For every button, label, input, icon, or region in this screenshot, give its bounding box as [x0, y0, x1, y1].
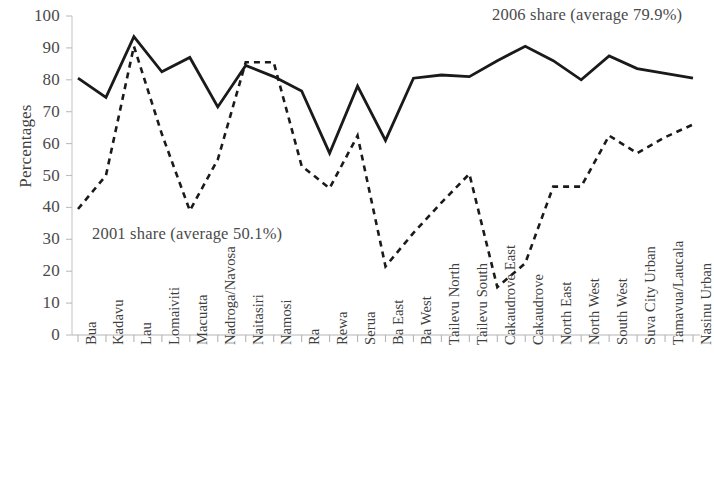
- x-axis-tick-label: North West: [587, 278, 602, 345]
- x-axis-tick-label: Lomaiviti: [167, 287, 182, 345]
- x-axis-tick-label: Naitasiri: [251, 294, 266, 345]
- x-axis-tick-label: Nadroga/Navosa: [223, 246, 238, 345]
- x-axis-tick-label: Bua: [84, 321, 99, 345]
- y-axis-tick-label: 10: [14, 294, 60, 311]
- x-axis-tick-label: Suva City Urban: [643, 246, 658, 345]
- y-axis-tick-label: 70: [14, 103, 60, 120]
- y-axis-tick-label: 50: [14, 167, 60, 184]
- x-axis-tick-label: South West: [615, 278, 630, 345]
- y-axis-tick-label: 100: [14, 7, 60, 24]
- series-line-2006: [78, 37, 693, 153]
- x-axis-tick-label: Ra: [307, 329, 322, 345]
- chart-series-lines: [78, 37, 693, 287]
- x-axis-tick-label: Ba West: [419, 296, 434, 345]
- series-line-2001: [78, 46, 693, 287]
- y-axis-tick-label: 80: [14, 71, 60, 88]
- y-axis-tick-label: 30: [14, 230, 60, 247]
- y-axis-tick-label: 60: [14, 135, 60, 152]
- x-axis-tick-label: Cakaudrove: [531, 274, 546, 345]
- y-axis-tick-label: 20: [14, 262, 60, 279]
- series-annotation-2001: 2001 share (average 50.1%): [92, 224, 282, 244]
- x-axis-tick-label: Kadavu: [111, 299, 126, 345]
- x-axis-tick-label: Nasinu Urban: [699, 263, 714, 345]
- x-axis-tick-label: Tailevu South: [475, 263, 490, 345]
- x-axis-tick-label: Lau: [139, 322, 154, 345]
- x-axis-tick-label: Serua: [363, 311, 378, 345]
- series-annotation-2006: 2006 share (average 79.9%): [492, 5, 682, 25]
- x-axis-tick-label: Cakaudrove East: [503, 245, 518, 345]
- x-axis-tick-label: Macuata: [195, 294, 210, 345]
- y-axis-tick-label: 0: [14, 326, 60, 343]
- x-axis-tick-label: North East: [559, 282, 574, 345]
- x-axis-tick-label: Rewa: [335, 312, 350, 345]
- x-axis-tick-label: Ba East: [391, 300, 406, 345]
- y-axis-tick-label: 90: [14, 39, 60, 56]
- x-axis-tick-label: Tailevu North: [447, 263, 462, 345]
- x-axis-tick-label: Namosi: [279, 299, 294, 345]
- y-axis-tick-label: 40: [14, 198, 60, 215]
- y-axis-ticks: [66, 16, 72, 335]
- x-axis-tick-label: Tamavua/Laucala: [671, 241, 686, 345]
